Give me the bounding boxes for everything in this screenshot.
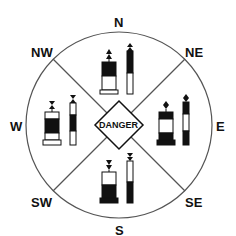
direction-label-s: S [115, 224, 124, 236]
direction-label-se: SE [185, 196, 202, 209]
east-cardinal-mark-icon [157, 94, 189, 145]
west-cardinal-mark-icon [43, 95, 76, 145]
direction-label-w: W [10, 120, 22, 133]
direction-label-n: N [114, 16, 123, 29]
direction-label-ne: NE [185, 46, 203, 59]
direction-label-sw: SW [31, 196, 52, 209]
direction-label-nw: NW [31, 46, 53, 59]
direction-label-e: E [216, 120, 225, 133]
south-cardinal-mark-icon [100, 153, 133, 203]
danger-label: DANGER [99, 120, 138, 130]
north-cardinal-mark-icon [100, 43, 133, 94]
